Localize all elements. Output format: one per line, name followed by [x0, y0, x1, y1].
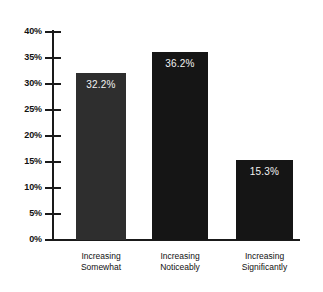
bar-value-label: 15.3% [236, 166, 293, 177]
category-label-line: Significantly [220, 262, 310, 273]
category-label: IncreasingSignificantly [220, 251, 310, 273]
category-label-line: Increasing [135, 251, 225, 262]
bar-value-label: 32.2% [76, 79, 126, 90]
bar[interactable]: 32.2% [76, 73, 126, 240]
bar-value-label: 36.2% [152, 58, 208, 69]
category-label: IncreasingNoticeably [135, 251, 225, 273]
category-label-line: Increasing [56, 251, 146, 262]
bar-chart: 0%5%10%15%20%25%30%35%40% 32.2%36.2%15.3… [0, 0, 323, 292]
bars-layer: 32.2%36.2%15.3% [0, 0, 323, 292]
bar[interactable]: 36.2% [152, 52, 208, 240]
category-label-line: Somewhat [56, 262, 146, 273]
category-label: IncreasingSomewhat [56, 251, 146, 273]
category-label-line: Increasing [220, 251, 310, 262]
category-label-line: Noticeably [135, 262, 225, 273]
bar[interactable]: 15.3% [236, 160, 293, 240]
